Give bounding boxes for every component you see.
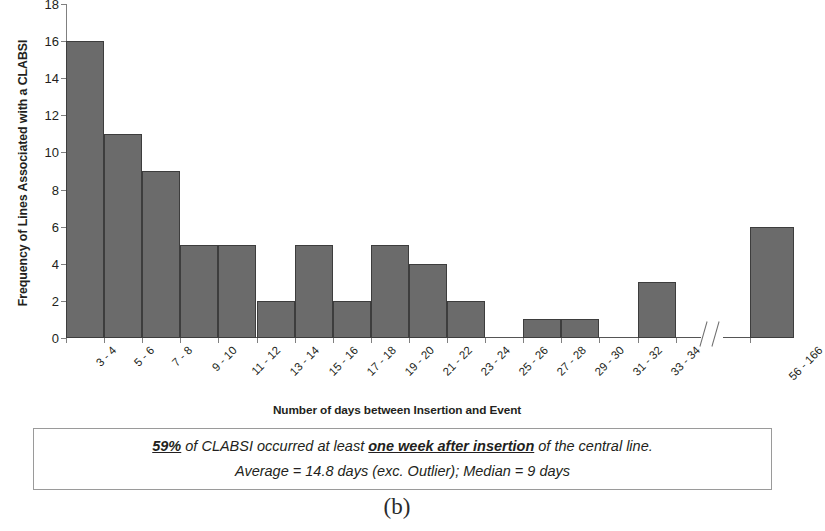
annotation-callout-box: 59% of CLABSI occurred at least one week…	[33, 428, 772, 490]
x-tick-label: 31 - 32	[631, 344, 665, 378]
bar	[142, 171, 180, 338]
x-tick-label: 9 - 10	[210, 344, 239, 373]
x-tick-mark	[447, 338, 448, 343]
bar	[104, 134, 142, 338]
x-tick-mark	[599, 338, 600, 343]
y-tick-label: 8	[29, 182, 59, 197]
axis-break-icon	[696, 321, 728, 347]
x-tick-mark	[257, 338, 258, 343]
annotation-text-a: of CLABSI occurred at least	[181, 438, 368, 454]
bar	[638, 282, 676, 338]
annotation-percent: 59%	[152, 438, 181, 454]
x-tick-label: 11 - 12	[250, 344, 283, 377]
y-tick-label: 2	[29, 293, 59, 308]
x-tick-mark	[750, 338, 751, 343]
figure-caption: (b)	[0, 494, 794, 520]
x-tick-label: 33 - 34	[669, 344, 703, 378]
x-tick-mark	[104, 338, 105, 343]
bar	[218, 245, 256, 338]
y-tick-mark	[61, 4, 66, 5]
x-tick-label: 21 - 22	[440, 344, 474, 378]
y-axis-title: Frequency of Lines Associated with a CLA…	[13, 3, 33, 343]
x-tick-label: 27 - 28	[555, 344, 589, 378]
x-tick-label: 15 - 16	[326, 344, 360, 378]
x-tick-label: 17 - 18	[364, 344, 398, 378]
x-tick-mark	[676, 338, 677, 343]
x-tick-mark	[561, 338, 562, 343]
x-tick-label: 19 - 20	[402, 344, 436, 378]
bar	[66, 41, 104, 338]
x-tick-mark	[371, 338, 372, 343]
x-tick-mark	[66, 338, 67, 343]
bar	[561, 319, 599, 338]
annotation-text-b: of the central line.	[534, 438, 653, 454]
bar	[180, 245, 218, 338]
x-tick-mark	[409, 338, 410, 343]
x-tick-label: 56 - 166	[787, 344, 825, 382]
bar	[257, 301, 295, 338]
x-tick-mark	[295, 338, 296, 343]
x-tick-label: 5 - 6	[132, 344, 157, 369]
bar	[447, 301, 485, 338]
annotation-line-2: Average = 14.8 days (exc. Outlier); Medi…	[235, 459, 570, 484]
x-tick-mark	[523, 338, 524, 343]
y-tick-label: 6	[29, 219, 59, 234]
y-tick-label: 10	[29, 145, 59, 160]
bar	[295, 245, 333, 338]
x-tick-label: 23 - 24	[478, 344, 512, 378]
bar	[523, 319, 561, 338]
bar	[409, 264, 447, 338]
annotation-emphasis: one week after insertion	[368, 438, 534, 454]
y-tick-label: 4	[29, 256, 59, 271]
x-tick-mark	[333, 338, 334, 343]
x-tick-mark	[485, 338, 486, 343]
y-tick-label: 16	[29, 34, 59, 49]
x-tick-label: 13 - 14	[288, 344, 322, 378]
bar	[371, 245, 409, 338]
plot-area: 024681012141618	[66, 4, 794, 338]
y-tick-label: 18	[29, 0, 59, 12]
x-tick-mark	[638, 338, 639, 343]
x-tick-label: 25 - 26	[517, 344, 551, 378]
x-tick-label: 3 - 4	[94, 344, 119, 369]
x-tick-label: 7 - 8	[170, 344, 195, 369]
x-tick-mark	[180, 338, 181, 343]
x-axis-title: Number of days between Insertion and Eve…	[0, 403, 794, 417]
y-tick-label: 0	[29, 331, 59, 346]
y-tick-label: 14	[29, 71, 59, 86]
x-tick-mark	[142, 338, 143, 343]
y-tick-label: 12	[29, 108, 59, 123]
x-tick-label: 29 - 30	[593, 344, 627, 378]
bar	[750, 227, 794, 338]
x-tick-mark	[218, 338, 219, 343]
annotation-line-1: 59% of CLABSI occurred at least one week…	[152, 434, 653, 459]
bar	[333, 301, 371, 338]
